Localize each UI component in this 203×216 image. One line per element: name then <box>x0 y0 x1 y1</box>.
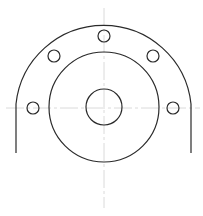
flange-drawing <box>0 0 203 216</box>
bolt-hole-4 <box>147 50 159 62</box>
bolt-hole-2 <box>48 50 60 62</box>
centerlines <box>6 8 200 208</box>
outline <box>16 25 191 162</box>
